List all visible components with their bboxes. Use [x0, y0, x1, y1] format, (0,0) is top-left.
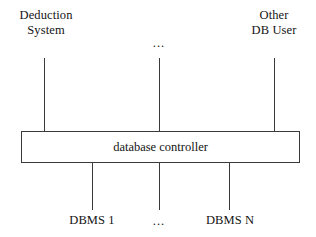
backend-label-dbms-1: DBMS 1 — [69, 213, 114, 228]
backend-label-dbms-1-text: DBMS 1 — [69, 213, 114, 228]
database-controller-label: database controller — [22, 140, 299, 155]
client-ellipsis-label: ... — [153, 36, 165, 50]
connector-controller-to-dbms-n — [229, 163, 230, 210]
backend-label-dbms-n: DBMS N — [206, 213, 254, 228]
client-label-deduction-system-line2: System — [20, 23, 73, 38]
client-label-deduction-system: Deduction System — [20, 8, 73, 38]
connector-other-db-user-to-controller — [274, 58, 275, 131]
backend-label-dbms-n-text: DBMS N — [206, 213, 254, 228]
connector-client-ellipsis-to-controller — [159, 58, 160, 131]
connector-controller-to-dbms-ellipsis — [159, 163, 160, 210]
connector-deduction-system-to-controller — [44, 58, 45, 131]
client-label-other-db-user-line1: Other — [252, 8, 297, 23]
client-label-other-db-user-line2: DB User — [252, 23, 297, 38]
client-label-other-db-user: Other DB User — [252, 8, 297, 38]
database-controller-box: database controller — [21, 131, 300, 163]
backend-ellipsis-label: ... — [153, 214, 165, 228]
connector-controller-to-dbms-1 — [92, 163, 93, 210]
diagram-canvas: Deduction System ... Other DB User datab… — [0, 0, 316, 237]
client-label-deduction-system-line1: Deduction — [20, 8, 73, 23]
